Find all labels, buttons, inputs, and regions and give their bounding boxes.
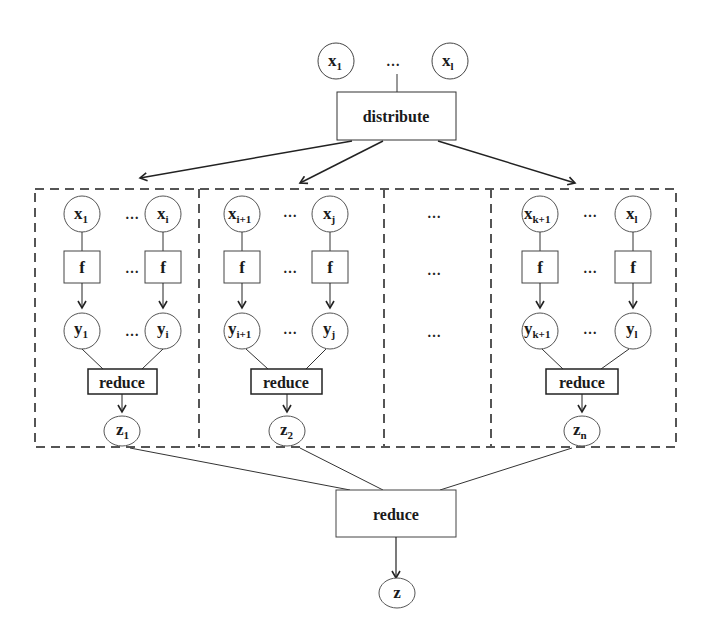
svg-text:…: … (283, 322, 297, 337)
input-node-xl: xl (432, 43, 468, 79)
svg-text:f: f (79, 258, 85, 277)
partition-n: xk+1 … xl f … f yk+1 … yl reduce zn (522, 196, 651, 446)
distribute-box: distribute (337, 92, 456, 140)
final-reduce-box: reduce (336, 490, 456, 537)
partition-1: x1 … xi f … f y1 … yi reduce z1 (64, 196, 181, 446)
final-reduce-label: reduce (373, 506, 419, 523)
svg-text:…: … (125, 324, 139, 339)
svg-text:reduce: reduce (559, 374, 605, 391)
svg-text:…: … (583, 322, 597, 337)
svg-text:…: … (125, 261, 139, 276)
input-ellipsis: … (386, 54, 400, 69)
svg-text:…: … (583, 205, 597, 220)
partitions-container (35, 189, 676, 447)
svg-text:reduce: reduce (99, 374, 145, 391)
svg-text:…: … (583, 261, 597, 276)
distribute-label: distribute (363, 108, 430, 125)
output-node-z: z (379, 578, 415, 608)
svg-text:reduce: reduce (263, 374, 309, 391)
svg-text:f: f (239, 258, 245, 277)
input-node-x1: x1 (318, 43, 354, 79)
svg-text:f: f (630, 258, 636, 277)
mapreduce-diagram: x1 … xl distribute x1 … xi f … f y1 … (0, 0, 704, 633)
svg-text:…: … (427, 206, 441, 221)
partition-2: xi+1 … xj f … f yi+1 … yj reduce z2 (224, 196, 348, 446)
svg-text:f: f (160, 258, 166, 277)
svg-text:…: … (427, 263, 441, 278)
svg-text:…: … (283, 261, 297, 276)
svg-text:…: … (125, 207, 139, 222)
svg-text:f: f (537, 258, 543, 277)
zn-to-reduce-line (440, 448, 572, 490)
partition-ellipsis-column: … … … (427, 206, 441, 340)
z2-to-reduce-line (300, 448, 383, 490)
svg-text:…: … (283, 205, 297, 220)
distribute-arrow-3 (438, 141, 575, 183)
svg-text:…: … (427, 325, 441, 340)
svg-text:f: f (327, 258, 333, 277)
z1-to-reduce-line (130, 448, 350, 490)
svg-text:z: z (393, 583, 401, 602)
